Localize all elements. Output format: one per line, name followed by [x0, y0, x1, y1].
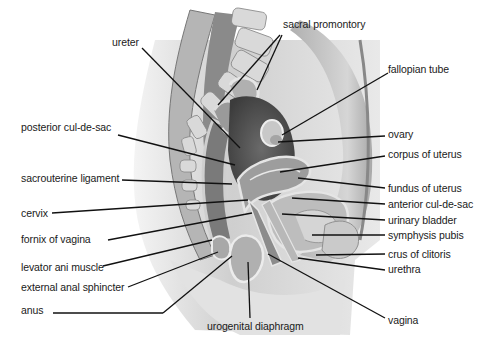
- label-urinary-bladder: urinary bladder: [388, 214, 457, 226]
- label-fallopian-tube: fallopian tube: [388, 63, 449, 75]
- label-cervix: cervix: [21, 207, 48, 219]
- label-fundus-of-uterus: fundus of uterus: [388, 182, 462, 194]
- label-corpus-of-uterus: corpus of uterus: [388, 148, 462, 160]
- label-urethra: urethra: [388, 263, 421, 275]
- label-ureter: ureter: [112, 36, 139, 48]
- label-anus: anus: [21, 304, 43, 316]
- label-vagina: vagina: [388, 314, 418, 326]
- label-ovary: ovary: [388, 128, 413, 140]
- label-urogenital-diaphragm: urogenital diaphragm: [207, 320, 304, 332]
- label-crus-of-clitoris: crus of clitoris: [388, 248, 451, 260]
- label-levator-ani-muscle: levator ani muscle: [21, 261, 104, 273]
- label-sacrouterine-ligament: sacrouterine ligament: [21, 172, 119, 184]
- pelvis-anatomy-figure: ureter posterior cul-de-sac sacrouterine…: [0, 0, 487, 353]
- label-external-anal-sphincter: external anal sphincter: [21, 281, 124, 293]
- label-anterior-cul-de-sac: anterior cul-de-sac: [388, 198, 473, 210]
- label-sacral-promontory: sacral promontory: [283, 18, 365, 30]
- label-fornix-of-vagina: fornix of vagina: [21, 233, 91, 245]
- label-posterior-cul-de-sac: posterior cul-de-sac: [21, 121, 111, 133]
- label-symphysis-pubis: symphysis pubis: [388, 229, 464, 241]
